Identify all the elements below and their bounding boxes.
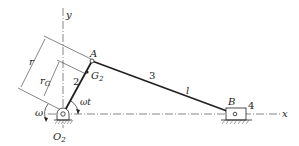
coupler-link-3 — [92, 61, 235, 114]
link-3-label: 3 — [149, 70, 155, 81]
slider-crank-diagram: y x A B G2 O2 2 3 4 l r rG ωt ω — [0, 0, 299, 146]
rG-extension-top — [57, 60, 86, 74]
angular-velocity-label: ω — [35, 107, 43, 118]
link-2-label: 2 — [73, 76, 79, 87]
y-axis-label: y — [65, 9, 72, 20]
angle-arrowhead — [76, 109, 80, 114]
point-a-label: A — [89, 48, 97, 59]
omega-arrowhead — [44, 117, 48, 122]
joint-a — [90, 59, 94, 63]
mass-center-g2 — [85, 70, 88, 73]
point-o2-label: O2 — [53, 131, 66, 144]
length-l-label: l — [186, 85, 189, 96]
dimension-rg-label: rG — [40, 75, 51, 88]
r-extension-top — [44, 36, 91, 59]
point-b-label: B — [227, 96, 235, 107]
point-g2-label: G2 — [91, 70, 104, 83]
x-axis-label: x — [282, 108, 288, 119]
angle-omega-t-label: ωt — [80, 97, 91, 107]
ground-pivot-o2 — [54, 108, 73, 124]
link-4-label: 4 — [248, 100, 254, 111]
angle-arc — [71, 101, 78, 114]
rG-dimension-line — [44, 62, 59, 96]
dimension-r-label: r — [29, 56, 35, 67]
